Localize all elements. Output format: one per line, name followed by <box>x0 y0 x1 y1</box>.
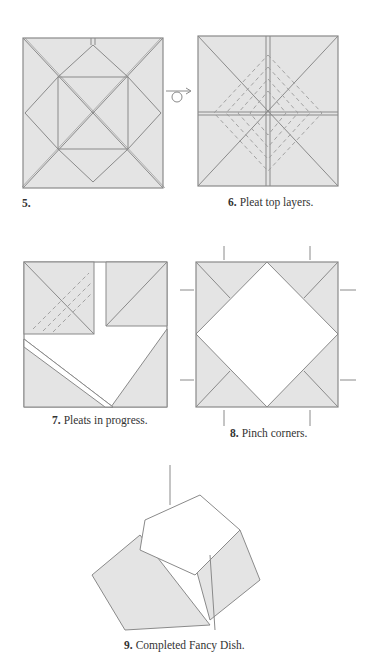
step-8-diagram <box>180 244 360 429</box>
step-number: 9. <box>124 639 133 651</box>
step-7-diagram <box>23 261 169 409</box>
step-7-caption: 7.Pleats in progress. <box>52 414 148 426</box>
step-9-diagram <box>90 455 290 640</box>
turn-over-icon <box>164 86 194 106</box>
step-number: 7. <box>52 414 61 426</box>
step-number: 8. <box>230 427 239 439</box>
step-5-diagram <box>22 37 165 189</box>
step-8-caption: 8.Pinch corners. <box>230 427 307 439</box>
step-5-caption: 5. <box>22 197 34 209</box>
step-6-caption: 6.Pleat top layers. <box>228 196 313 208</box>
step-number: 5. <box>22 197 31 209</box>
step-number: 6. <box>228 196 237 208</box>
step-6-diagram <box>197 35 340 188</box>
step-9-caption: 9.Completed Fancy Dish. <box>124 639 245 651</box>
